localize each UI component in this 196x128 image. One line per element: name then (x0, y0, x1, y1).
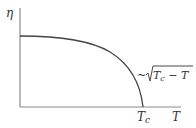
critical-temp-sub: c (145, 115, 150, 125)
svg-text:Tc: Tc (137, 110, 150, 125)
annotation-rest: − T (165, 69, 190, 82)
y-axis-label: η (6, 6, 14, 20)
annotation-tilde: ~ (137, 69, 146, 82)
x-axis-label: T (172, 110, 181, 124)
svg-text:Tc − T: Tc − T (153, 69, 190, 83)
order-parameter-curve (20, 36, 143, 107)
order-parameter-diagram: η ~ Tc − T Tc T (0, 0, 196, 128)
